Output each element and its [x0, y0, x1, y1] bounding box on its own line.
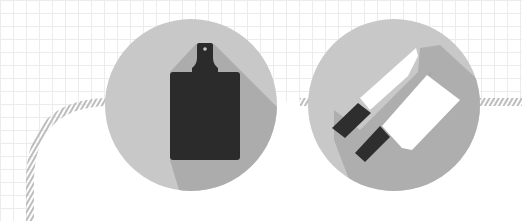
illustration-canvas: [0, 0, 522, 221]
knife-cleaver-icon: [308, 19, 520, 221]
cutting-board-icon: [105, 19, 310, 221]
